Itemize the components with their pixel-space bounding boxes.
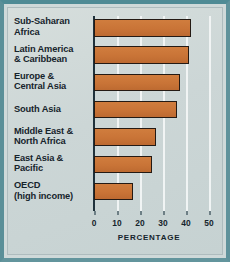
gridline-40: [186, 16, 188, 211]
category-label: South Asia: [14, 104, 92, 114]
category-label: OECD (high income): [14, 180, 92, 201]
category-label: Sub-Saharan Africa: [14, 16, 92, 37]
tick-mark-0: [94, 211, 96, 215]
gridline-50: [209, 16, 211, 211]
x-tick-label: 40: [176, 218, 196, 228]
x-tick-label: 0: [84, 218, 104, 228]
chart-frame: Sub-Saharan AfricaLatin America & Caribb…: [0, 0, 230, 262]
bar: [94, 183, 133, 201]
category-label: Middle East & North Africa: [14, 126, 92, 147]
bar: [94, 101, 177, 119]
x-axis-label: PERCENTAGE: [8, 233, 230, 242]
bar: [94, 19, 191, 37]
x-tick-label: 20: [130, 218, 150, 228]
x-tick-label: 10: [107, 218, 127, 228]
x-tick-label: 30: [153, 218, 173, 228]
tick-mark-20: [140, 211, 142, 215]
x-tick-label: 50: [199, 218, 219, 228]
bar: [94, 74, 180, 92]
chart-inner-panel: Sub-Saharan AfricaLatin America & Caribb…: [7, 7, 223, 255]
tick-mark-40: [186, 211, 188, 215]
bar: [94, 46, 189, 64]
tick-mark-10: [117, 211, 119, 215]
tick-mark-30: [163, 211, 165, 215]
bar: [94, 128, 156, 146]
category-label: Latin America & Caribbean: [14, 44, 92, 65]
bar: [94, 156, 152, 174]
category-label: East Asia & Pacific: [14, 153, 92, 174]
category-label: Europe & Central Asia: [14, 71, 92, 92]
tick-mark-50: [209, 211, 211, 215]
bar-chart-plot: Sub-Saharan AfricaLatin America & Caribb…: [8, 8, 230, 262]
